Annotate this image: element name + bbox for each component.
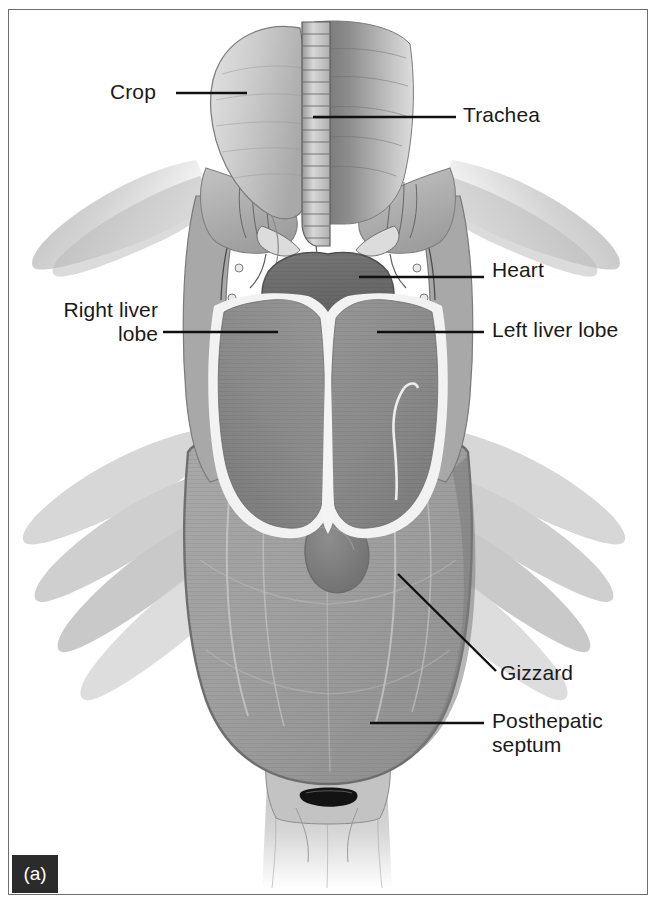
liver-shape [208, 293, 448, 538]
panel-tag: (a) [12, 855, 58, 893]
figure-root: Crop Trachea Heart Right liver lobe Left… [0, 0, 655, 923]
label-left-liver-lobe: Left liver lobe [492, 318, 618, 342]
label-trachea: Trachea [463, 103, 540, 127]
label-posthepatic-septum: Posthepatic septum [492, 709, 603, 756]
label-heart: Heart [492, 258, 544, 282]
anatomy-illustration [0, 0, 655, 923]
trachea-shape [302, 22, 330, 290]
label-crop: Crop [110, 80, 156, 104]
label-gizzard: Gizzard [500, 661, 573, 685]
label-right-liver-lobe: Right liver lobe [0, 298, 158, 345]
